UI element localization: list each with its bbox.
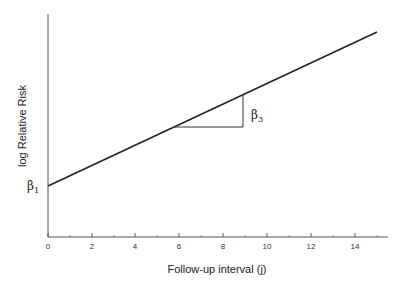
x-tick-labels: 0 2 4 6 8 10 12 14 <box>46 242 360 251</box>
x-tick-label: 2 <box>90 242 95 251</box>
x-tick-label: 4 <box>133 242 138 251</box>
x-tick-label: 10 <box>263 242 272 251</box>
x-major-ticks <box>48 233 355 237</box>
x-tick-label: 12 <box>307 242 316 251</box>
trend-line <box>48 32 377 186</box>
x-axis-title: Follow-up interval (j) <box>167 263 266 275</box>
beta1-label: β1 <box>27 179 39 195</box>
beta3-label: β3 <box>251 108 263 124</box>
x-tick-label: 14 <box>351 242 360 251</box>
x-tick-label: 6 <box>177 242 182 251</box>
x-tick-label: 0 <box>46 242 51 251</box>
y-axis-title: log Relative Risk <box>16 85 28 167</box>
x-tick-label: 8 <box>221 242 226 251</box>
chart: 0 2 4 6 8 10 12 14 β1 β3 Follow-up inter… <box>0 0 401 286</box>
